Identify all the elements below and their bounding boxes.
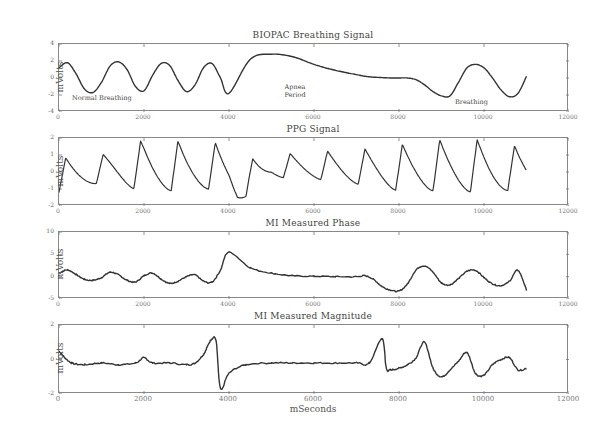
- y-tick-label: 2: [40, 320, 54, 327]
- y-tick-label: 0: [40, 272, 54, 279]
- x-tick-label: 6000: [293, 113, 333, 120]
- breathing-plot: [58, 43, 568, 111]
- x-tick-label: 0: [38, 395, 78, 403]
- x-tick-label: 2000: [123, 113, 163, 120]
- magnitude-title: MI Measured Magnitude: [58, 311, 568, 321]
- y-tick-label: 0: [40, 167, 54, 174]
- y-tick-label: 0: [40, 355, 54, 362]
- x-tick-label: 10000: [463, 300, 503, 307]
- y-tick-label: 10: [40, 227, 54, 234]
- y-tick-label: 4: [40, 39, 54, 46]
- x-tick-label: 12000: [548, 113, 588, 120]
- annotation-normal-breathing: Normal Breathing: [72, 94, 132, 102]
- y-tick-label: -2: [40, 90, 54, 97]
- breathing-title: BIOPAC Breathing Signal: [58, 30, 568, 40]
- x-tick-label: 2000: [123, 395, 163, 403]
- ppg-ylabel: mVolts: [55, 141, 65, 201]
- magnitude-plot: [58, 324, 568, 393]
- annotation-breathing: Breathing: [455, 98, 488, 106]
- x-tick-label: 8000: [378, 395, 418, 403]
- y-tick-label: 2: [40, 133, 54, 140]
- x-tick-label: 10000: [463, 207, 503, 214]
- x-tick-label: 0: [38, 300, 78, 307]
- y-tick-label: 0: [40, 73, 54, 80]
- y-tick-label: 2: [40, 56, 54, 63]
- phase-title: MI Measured Phase: [58, 218, 568, 228]
- x-axis-label: mSeconds: [58, 404, 568, 414]
- annotation-apnea-period: Apnea Period: [275, 83, 315, 99]
- phase-ylabel: mVolts: [55, 234, 65, 294]
- x-tick-label: 10000: [463, 395, 503, 403]
- x-tick-label: 2000: [123, 207, 163, 214]
- x-tick-label: 12000: [548, 207, 588, 214]
- x-tick-label: 8000: [378, 113, 418, 120]
- x-tick-label: 10000: [463, 113, 503, 120]
- x-tick-label: 0: [38, 113, 78, 120]
- ppg-title: PPG Signal: [58, 124, 568, 134]
- ppg-plot: [58, 137, 568, 205]
- x-tick-label: 2000: [123, 300, 163, 307]
- x-tick-label: 4000: [208, 300, 248, 307]
- magnitude-ylabel: mVolts: [55, 328, 65, 388]
- phase-plot: [58, 231, 568, 298]
- x-tick-label: 6000: [293, 300, 333, 307]
- x-tick-label: 12000: [548, 395, 588, 403]
- breathing-ylabel: mVolts: [55, 47, 65, 107]
- x-tick-label: 6000: [293, 395, 333, 403]
- x-tick-label: 0: [38, 207, 78, 214]
- breathing-line: [59, 44, 569, 112]
- phase-line: [59, 232, 569, 299]
- magnitude-line: [59, 325, 569, 394]
- x-tick-label: 8000: [378, 300, 418, 307]
- x-tick-label: 4000: [208, 113, 248, 120]
- y-tick-label: 5: [40, 249, 54, 256]
- y-tick-label: 1: [40, 150, 54, 157]
- x-tick-label: 8000: [378, 207, 418, 214]
- y-tick-label: -1: [40, 184, 54, 191]
- x-tick-label: 4000: [208, 207, 248, 214]
- x-tick-label: 6000: [293, 207, 333, 214]
- ppg-line: [59, 138, 569, 206]
- x-tick-label: 4000: [208, 395, 248, 403]
- x-tick-label: 12000: [548, 300, 588, 307]
